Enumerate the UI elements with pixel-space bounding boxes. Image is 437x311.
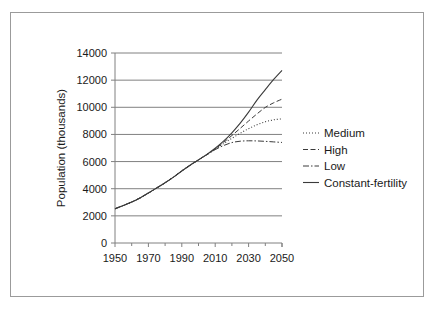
chart-figure-frame: 02000400060008000100001200014000 1950197…	[10, 12, 424, 297]
y-axis-tick-label: 8000	[83, 128, 107, 140]
legend-label-high: High	[324, 144, 348, 156]
population-projection-chart: 02000400060008000100001200014000 1950197…	[11, 13, 425, 298]
series-line-low	[115, 141, 282, 209]
x-axis-tick-label: 1990	[170, 252, 194, 264]
series-line-constant-fertility	[115, 70, 282, 208]
series-line-medium	[115, 119, 282, 209]
series-paths-group	[115, 70, 282, 208]
x-axis-tick-label: 2030	[236, 252, 260, 264]
legend-label-low: Low	[324, 160, 346, 172]
x-axis-tick-label: 2050	[270, 252, 294, 264]
x-axis-tick-labels: 195019701990201020302050	[103, 252, 294, 264]
series-line-high	[115, 99, 282, 209]
x-axis-tick-label: 1950	[103, 252, 127, 264]
chart-legend: MediumHighLowConstant-fertility	[303, 127, 407, 189]
y-axis-tick-label: 6000	[83, 156, 107, 168]
legend-label-constant-fertility: Constant-fertility	[324, 177, 407, 189]
tick-marks-group	[111, 53, 282, 247]
y-axis-title: Population (thousands)	[55, 89, 67, 207]
gridlines-group	[115, 53, 282, 216]
legend-label-medium: Medium	[324, 127, 365, 139]
y-axis-tick-label: 14000	[76, 47, 107, 59]
y-axis-tick-label: 10000	[76, 101, 107, 113]
y-axis-tick-label: 12000	[76, 74, 107, 86]
y-axis-tick-label: 0	[101, 237, 107, 249]
y-axis-tick-labels: 02000400060008000100001200014000	[76, 47, 107, 249]
y-axis-tick-label: 2000	[83, 210, 107, 222]
x-axis-tick-label: 1970	[136, 252, 160, 264]
y-axis-tick-label: 4000	[83, 183, 107, 195]
x-axis-tick-label: 2010	[203, 252, 227, 264]
chart-svg: 02000400060008000100001200014000 1950197…	[11, 13, 425, 298]
